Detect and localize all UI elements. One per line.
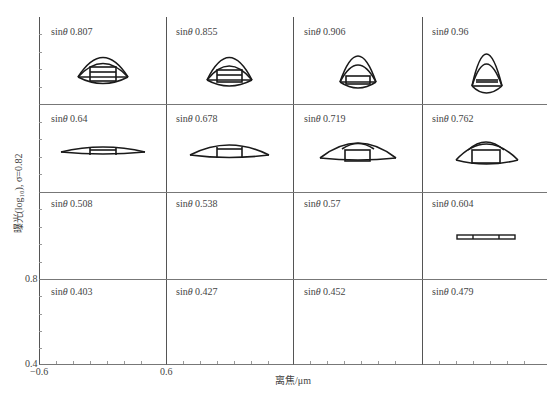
contour-0-64 (61, 147, 145, 155)
x-axis-title: 离焦/μm (275, 372, 311, 387)
contour-0-719 (320, 143, 396, 161)
panel-label: sinθ 0.678 (176, 113, 218, 124)
panel-label: sinθ 0.855 (176, 26, 218, 37)
panel-label: sinθ 0.96 (432, 26, 469, 37)
panel-label: sinθ 0.762 (432, 113, 474, 124)
x-tick-label: −0.6 (30, 366, 48, 377)
panel-label: sinθ 0.57 (304, 198, 341, 209)
y-axis-title: 曝光(log₁₀), σ=0.82 (10, 129, 25, 259)
panel-label: sinθ 0.538 (176, 198, 218, 209)
panel-label: sinθ 0.452 (304, 286, 346, 297)
x-tick-label: 0.6 (160, 366, 173, 377)
panel-label: sinθ 0.403 (51, 286, 93, 297)
contour-0-906 (340, 56, 376, 88)
panel-label: sinθ 0.508 (51, 198, 93, 209)
contour-0-96 (472, 54, 502, 93)
contour-0-807 (78, 58, 128, 84)
panel-label: sinθ 0.807 (51, 26, 93, 37)
contour-0-762 (456, 142, 518, 164)
panel-label: sinθ 0.906 (304, 26, 346, 37)
panel-label: sinθ 0.427 (176, 286, 218, 297)
contour-0-678 (190, 145, 269, 158)
contour-0-604 (457, 235, 515, 239)
panel-label: sinθ 0.719 (304, 113, 346, 124)
panel-label: sinθ 0.479 (432, 286, 474, 297)
panel-label: sinθ 0.604 (432, 198, 474, 209)
panel-label: sinθ 0.64 (51, 113, 88, 124)
contour-0-855 (207, 58, 252, 87)
grid-lines (39, 17, 547, 365)
y-tick-label: 0.8 (25, 273, 38, 284)
